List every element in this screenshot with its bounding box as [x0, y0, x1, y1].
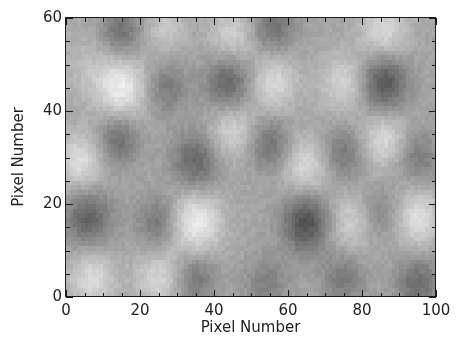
- x-tick-top: [159, 18, 160, 22]
- x-tick-bottom: [344, 293, 345, 297]
- x-tick-bottom: [325, 293, 326, 297]
- x-tick-bottom: [196, 293, 197, 297]
- x-tick-bottom: [140, 290, 141, 297]
- x-tick-top: [196, 18, 197, 22]
- y-tick-right: [432, 88, 436, 89]
- x-tick-top: [122, 18, 123, 22]
- x-tick-top: [66, 18, 67, 25]
- x-tick-bottom: [288, 290, 289, 297]
- x-tick-bottom: [381, 293, 382, 297]
- x-tick-bottom: [270, 293, 271, 297]
- x-tick-top: [103, 18, 104, 22]
- y-tick-left: [66, 181, 70, 182]
- y-tick-left: [66, 274, 70, 275]
- y-tick-left: [66, 134, 70, 135]
- x-tick-top: [85, 18, 86, 22]
- x-tick-bottom: [159, 293, 160, 297]
- x-tick-bottom: [122, 293, 123, 297]
- y-tick-right: [432, 158, 436, 159]
- x-tick-bottom: [251, 293, 252, 297]
- y-tick-right: [429, 18, 436, 19]
- y-tick-left: [66, 18, 73, 19]
- x-tick-label: 60: [278, 303, 297, 318]
- y-tick-right: [432, 274, 436, 275]
- y-tick-left: [66, 297, 73, 298]
- y-tick-right: [429, 204, 436, 205]
- x-tick-bottom: [233, 293, 234, 297]
- x-tick-top: [177, 18, 178, 22]
- y-tick-left: [66, 41, 70, 42]
- x-tick-top: [270, 18, 271, 22]
- y-tick-left: [66, 158, 70, 159]
- y-tick-right: [432, 181, 436, 182]
- y-tick-label: 40: [32, 103, 62, 118]
- y-tick-right: [429, 111, 436, 112]
- x-tick-label: 40: [204, 303, 223, 318]
- y-tick-label: 20: [32, 196, 62, 211]
- y-axis-label: Pixel Number: [9, 107, 27, 207]
- y-tick-right: [432, 65, 436, 66]
- x-tick-bottom: [103, 293, 104, 297]
- x-tick-bottom: [362, 290, 363, 297]
- x-tick-top: [233, 18, 234, 22]
- heatmap-image: [66, 18, 436, 297]
- y-tick-right: [432, 134, 436, 135]
- y-tick-left: [66, 65, 70, 66]
- y-tick-left: [66, 204, 73, 205]
- y-tick-left: [66, 88, 70, 89]
- x-tick-bottom: [85, 293, 86, 297]
- x-tick-bottom: [418, 293, 419, 297]
- y-tick-right: [432, 41, 436, 42]
- x-axis-label: Pixel Number: [0, 318, 461, 336]
- y-tick-label: 0: [32, 289, 62, 304]
- x-tick-top: [381, 18, 382, 22]
- x-tick-top: [436, 18, 437, 25]
- y-tick-right: [429, 297, 436, 298]
- x-tick-top: [399, 18, 400, 22]
- y-tick-right: [432, 227, 436, 228]
- heatmap-plot-area: [66, 18, 436, 297]
- x-tick-top: [288, 18, 289, 25]
- x-tick-top: [307, 18, 308, 22]
- y-tick-label: 60: [32, 10, 62, 25]
- x-tick-bottom: [307, 293, 308, 297]
- y-tick-left: [66, 227, 70, 228]
- x-tick-bottom: [214, 290, 215, 297]
- x-tick-bottom: [399, 293, 400, 297]
- x-tick-top: [251, 18, 252, 22]
- x-tick-label: 80: [352, 303, 371, 318]
- x-tick-label: 0: [61, 303, 71, 318]
- y-tick-left: [66, 111, 73, 112]
- x-tick-label: 20: [130, 303, 149, 318]
- x-tick-top: [418, 18, 419, 22]
- x-tick-top: [362, 18, 363, 25]
- y-tick-right: [432, 251, 436, 252]
- x-tick-top: [140, 18, 141, 25]
- x-tick-top: [214, 18, 215, 25]
- x-tick-bottom: [177, 293, 178, 297]
- y-tick-left: [66, 251, 70, 252]
- x-tick-top: [344, 18, 345, 22]
- x-tick-top: [325, 18, 326, 22]
- x-tick-label: 100: [422, 303, 451, 318]
